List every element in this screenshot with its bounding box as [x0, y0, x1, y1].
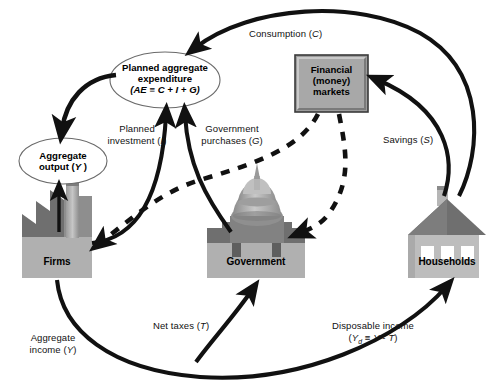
households-label: Households: [412, 256, 482, 267]
label-consumption: Consumption (C): [249, 28, 322, 40]
government-purchases-line-2: purchases (G): [186, 135, 278, 147]
label-government-purchases: Government purchases (G): [186, 123, 278, 146]
aggregate-output-label: Aggregate output (Y ): [19, 150, 107, 172]
flow-ae-to-output: [62, 75, 116, 130]
ae-line-2: expenditure: [110, 73, 220, 84]
disposable-income-line-1: Disposable income: [318, 320, 428, 332]
aggregate-income-line-2: income (Y): [15, 344, 91, 356]
fin-line-1: Financial: [297, 64, 366, 75]
circular-flow-diagram: Planned aggregate expenditure (AE ≡ C + …: [0, 0, 503, 387]
output-line-2: output (Y ): [19, 161, 107, 172]
label-savings: Savings (S): [383, 134, 433, 146]
ae-line-1: Planned aggregate: [110, 62, 220, 73]
disposable-income-line-2: (Yd ≡ Y - T): [318, 332, 428, 347]
aggregate-income-line-1: Aggregate: [15, 332, 91, 344]
label-planned-investment: Planned investment (I): [93, 123, 181, 146]
ae-formula: (AE ≡ C + I + G): [110, 84, 220, 95]
fin-line-2: (money): [297, 75, 366, 86]
label-aggregate-income: Aggregate income (Y): [15, 332, 91, 355]
planned-investment-line-2: investment (I): [93, 135, 181, 147]
firms-label: Firms: [22, 256, 92, 267]
fin-line-3: markets: [297, 86, 366, 97]
government-purchases-line-1: Government: [186, 123, 278, 135]
label-net-taxes: Net taxes (T): [153, 320, 209, 332]
financial-markets-label: Financial (money) markets: [297, 64, 366, 97]
government-label: Government: [207, 256, 305, 267]
output-line-1: Aggregate: [19, 150, 107, 161]
planned-aggregate-expenditure-label: Planned aggregate expenditure (AE ≡ C + …: [110, 62, 220, 95]
label-disposable-income: Disposable income (Yd ≡ Y - T): [318, 320, 428, 347]
planned-investment-line-1: Planned: [93, 123, 181, 135]
